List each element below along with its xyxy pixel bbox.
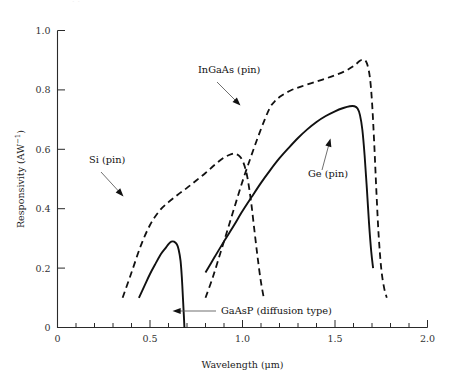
x-tick-label: 0.5 bbox=[142, 333, 157, 344]
y-axis-title: Responsivity (AW−1) bbox=[14, 130, 26, 228]
data-series-group bbox=[123, 59, 387, 327]
x-tick-label: 1.5 bbox=[327, 333, 342, 344]
series-curve bbox=[139, 241, 185, 327]
y-axis-title-text: Responsivity (AW−1) bbox=[14, 130, 26, 228]
x-tick-label: 0 bbox=[54, 333, 60, 344]
ge-pin-leader-head bbox=[325, 139, 331, 148]
ingaas-pin-leader bbox=[217, 82, 236, 101]
x-tick-label: 2.0 bbox=[420, 333, 435, 344]
annotation-labels: Si (pin)InGaAs (pin)Ge (pin)GaAsP (diffu… bbox=[89, 64, 348, 316]
curve-label-gaasp-diffusion: GaAsP (diffusion type) bbox=[221, 305, 332, 316]
axis-spines bbox=[58, 31, 428, 328]
series-curve bbox=[123, 154, 264, 298]
y-tick-label: 0.2 bbox=[35, 263, 50, 274]
responsivity-plot: 00.51.01.52.000.20.40.60.81.0Wavelength … bbox=[0, 0, 456, 381]
si-pin-leader bbox=[101, 172, 119, 192]
y-tick-label: 0 bbox=[44, 322, 50, 333]
annotation-leaders bbox=[101, 82, 331, 314]
curve-label-ingaas-pin: InGaAs (pin) bbox=[198, 64, 261, 75]
ge-pin-leader bbox=[322, 145, 329, 170]
series-curve bbox=[206, 59, 387, 297]
x-tick-label: 1.0 bbox=[235, 333, 250, 344]
y-axis-ticks: 00.20.40.60.81.0 bbox=[35, 25, 65, 333]
x-axis-ticks: 00.51.01.52.0 bbox=[54, 320, 435, 344]
y-tick-label: 0.6 bbox=[35, 144, 50, 155]
y-tick-label: 0.8 bbox=[35, 84, 50, 95]
figure-container: ·· 00.51.01.52.000.20.40.60.81.0Waveleng… bbox=[0, 0, 456, 381]
gaasp-leader-head bbox=[173, 308, 181, 314]
series-curve bbox=[206, 106, 374, 273]
y-tick-label: 1.0 bbox=[35, 25, 50, 36]
x-axis-title: Wavelength (μm) bbox=[201, 359, 283, 370]
curve-label-ge-pin: Ge (pin) bbox=[308, 168, 348, 179]
curve-label-si-pin: Si (pin) bbox=[89, 154, 125, 165]
y-tick-label: 0.4 bbox=[35, 203, 50, 214]
y-axis-title-exponent: −1 bbox=[14, 134, 22, 144]
